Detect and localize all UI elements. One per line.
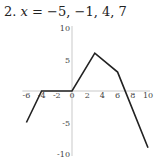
x-tick-label: 0 — [69, 91, 74, 100]
x-tick-label: 6 — [115, 91, 120, 100]
y-tick-label: 10 — [60, 24, 70, 33]
line-chart: -6-4-20246810105-5-10 — [0, 0, 161, 158]
x-tick-label: 10 — [143, 91, 153, 100]
x-tick-label: -6 — [23, 91, 31, 100]
x-tick-label: 4 — [100, 91, 105, 100]
x-tick-label: 2 — [85, 91, 90, 100]
x-tick-label: -2 — [53, 91, 61, 100]
function-graph — [26, 53, 148, 148]
y-tick-label: 5 — [65, 56, 70, 65]
x-tick-label: 8 — [130, 91, 135, 100]
y-tick-label: -10 — [57, 150, 70, 158]
y-tick-label: -5 — [62, 119, 70, 128]
